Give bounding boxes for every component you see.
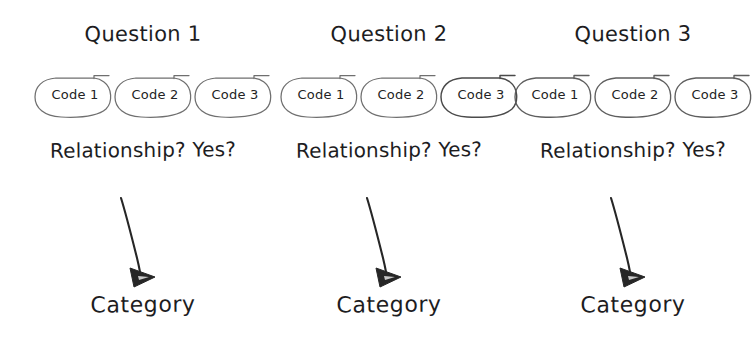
- category-outcome-label: Category: [18, 291, 268, 319]
- curved-arrow-icon: [264, 192, 514, 292]
- code-bubble-label: Code 3: [672, 87, 756, 102]
- relationship-prompt: Relationship? Yes?: [264, 137, 514, 163]
- code-bubble: Code 1: [278, 74, 364, 120]
- flow-arrow-container: [264, 192, 514, 292]
- code-bubble-label: Code 2: [112, 87, 198, 102]
- code-bubble-label: Code 1: [278, 87, 364, 102]
- code-bubble: Code 2: [358, 74, 444, 120]
- code-bubble-row: Code 1 Code 2 Code 3: [264, 74, 514, 124]
- category-outcome-label: Category: [264, 291, 514, 319]
- code-bubble-label: Code 2: [592, 87, 678, 102]
- relationship-prompt: Relationship? Yes?: [508, 137, 756, 163]
- code-bubble: Code 1: [32, 74, 118, 120]
- question-column-3: Question 3 Code 1 Code 2 Code 3: [508, 0, 756, 356]
- code-bubble: Code 2: [592, 74, 678, 120]
- curved-arrow-icon: [508, 192, 756, 292]
- code-bubble-label: Code 1: [32, 87, 118, 102]
- flow-arrow-container: [18, 192, 268, 292]
- question-title: Question 1: [18, 21, 268, 47]
- question-title: Question 2: [264, 21, 514, 47]
- question-column-2: Question 2 Code 1 Code 2 Code 3: [264, 0, 514, 356]
- code-bubble-row: Code 1 Code 2 Code 3: [508, 74, 756, 124]
- code-bubble: Code 1: [512, 74, 598, 120]
- code-bubble-label: Code 2: [358, 87, 444, 102]
- flow-arrow-container: [508, 192, 756, 292]
- question-title: Question 3: [508, 21, 756, 47]
- category-outcome-label: Category: [508, 291, 756, 319]
- relationship-prompt: Relationship? Yes?: [18, 137, 268, 163]
- code-bubble-row: Code 1 Code 2 Code 3: [18, 74, 268, 124]
- code-bubble: Code 3: [672, 74, 756, 120]
- curved-arrow-icon: [18, 192, 268, 292]
- code-bubble-label: Code 1: [512, 87, 598, 102]
- question-column-1: Question 1 Code 1 Code 2 Code 3: [18, 0, 268, 356]
- code-bubble: Code 2: [112, 74, 198, 120]
